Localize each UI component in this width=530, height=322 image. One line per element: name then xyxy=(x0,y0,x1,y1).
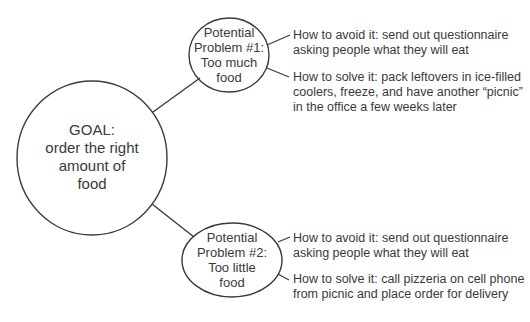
note-line: asking people what they will eat xyxy=(293,246,508,261)
goal-line: amount of xyxy=(27,157,157,175)
problem-1-avoid-note: How to avoid it: send out questionnaire … xyxy=(293,28,508,58)
note-line: from picnic and place order for delivery xyxy=(293,287,524,302)
problem-2-line: Problem #2: xyxy=(187,245,277,260)
connector-problem-2-solve xyxy=(278,274,289,280)
goal-node: GOAL: order the right amount of food xyxy=(27,121,157,193)
problem-1-node: Potential Problem #1: Too much food xyxy=(189,25,269,85)
goal-line: food xyxy=(27,175,157,193)
note-line: in the office a few weeks later xyxy=(293,100,523,115)
problem-1-line: Too much xyxy=(189,55,269,70)
goal-line: order the right xyxy=(27,139,157,157)
problem-2-node: Potential Problem #2: Too little food xyxy=(187,230,277,290)
note-line: How to avoid it: send out questionnaire xyxy=(293,28,508,43)
note-line: How to avoid it: send out questionnaire xyxy=(293,231,508,246)
problem-1-line: Problem #1: xyxy=(189,40,269,55)
problem-2-line: food xyxy=(187,275,277,290)
note-line: asking people what they will eat xyxy=(293,43,508,58)
problem-2-line: Potential xyxy=(187,230,277,245)
problem-1-line: food xyxy=(189,70,269,85)
problem-2-solve-note: How to solve it: call pizzeria on cell p… xyxy=(293,272,524,302)
connector-problem-1-avoid xyxy=(267,35,290,45)
note-line: coolers, freeze, and have another “picni… xyxy=(293,85,523,100)
connector-problem-1-solve xyxy=(267,68,289,77)
connector-problem-2-avoid xyxy=(278,237,290,242)
note-line: How to solve it: pack leftovers in ice-f… xyxy=(293,70,523,85)
problem-2-avoid-note: How to avoid it: send out questionnaire … xyxy=(293,231,508,261)
problem-1-solve-note: How to solve it: pack leftovers in ice-f… xyxy=(293,70,523,115)
note-line: How to solve it: call pizzeria on cell p… xyxy=(293,272,524,287)
problem-2-line: Too little xyxy=(187,260,277,275)
goal-line: GOAL: xyxy=(27,121,157,139)
problem-1-line: Potential xyxy=(189,25,269,40)
